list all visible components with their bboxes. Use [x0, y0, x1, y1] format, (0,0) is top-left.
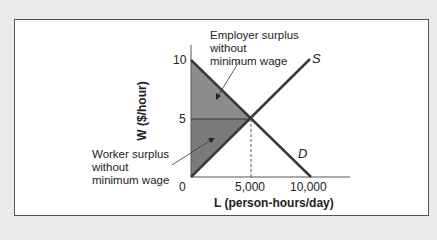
x-tick-5000: 5,000 [235, 180, 265, 194]
x-axis-title: L (person-hours/day) [214, 196, 334, 210]
x-tick-0: 0 [179, 180, 186, 194]
employer-surplus-line2: without [210, 42, 299, 55]
worker-surplus-line2: without [92, 161, 169, 174]
y-tick-5: 5 [179, 112, 186, 126]
employer-surplus-line3: minimum wage [210, 55, 299, 68]
y-axis-title: W ($/hour) [135, 81, 149, 140]
x-tick-10000: 10,000 [290, 180, 327, 194]
employer-surplus-label: Employer surplus without minimum wage [210, 29, 299, 68]
demand-label: D [298, 146, 307, 161]
supply-label: S [312, 51, 321, 66]
worker-surplus-label: Worker surplus without minimum wage [92, 148, 169, 187]
worker-surplus-line1: Worker surplus [92, 148, 169, 161]
worker-surplus-line3: minimum wage [92, 174, 169, 187]
y-tick-10: 10 [173, 53, 186, 67]
employer-surplus-line1: Employer surplus [210, 29, 299, 42]
